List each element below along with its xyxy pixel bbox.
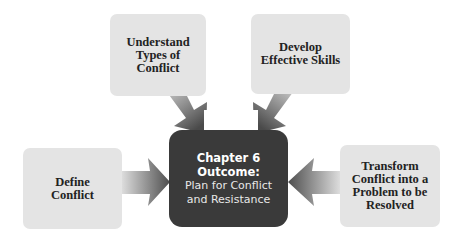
node-label-line: Understand — [126, 36, 189, 49]
node-label-line: Conflict — [126, 62, 189, 75]
node-understand-types-of-conflict: Understand Types of Conflict — [110, 14, 206, 96]
node-transform-conflict: Transform Conflict into a Problem to be … — [340, 145, 440, 227]
node-label-line: Resolved — [352, 199, 428, 212]
diagram-canvas: Understand Types of Conflict Develop Eff… — [0, 0, 462, 246]
center-title-line: Chapter 6 — [197, 151, 261, 165]
node-label-line: Define — [51, 176, 94, 189]
center-outcome-box: Chapter 6 Outcome: Plan for Conflict and… — [169, 130, 288, 227]
center-title-line: Outcome: — [197, 165, 260, 179]
arrow-transform-to-center — [288, 158, 342, 206]
node-define-conflict: Define Conflict — [23, 148, 122, 229]
node-label-line: Conflict — [51, 189, 94, 202]
notch — [204, 110, 258, 132]
node-label-line: Types of — [126, 49, 189, 62]
center-subtitle-line: Plan for Conflict — [185, 179, 272, 193]
node-label-line: Effective Skills — [261, 54, 341, 67]
node-develop-effective-skills: Develop Effective Skills — [251, 14, 350, 94]
arrow-define-to-center — [120, 158, 170, 206]
center-subtitle-line: and Resistance — [187, 193, 270, 207]
